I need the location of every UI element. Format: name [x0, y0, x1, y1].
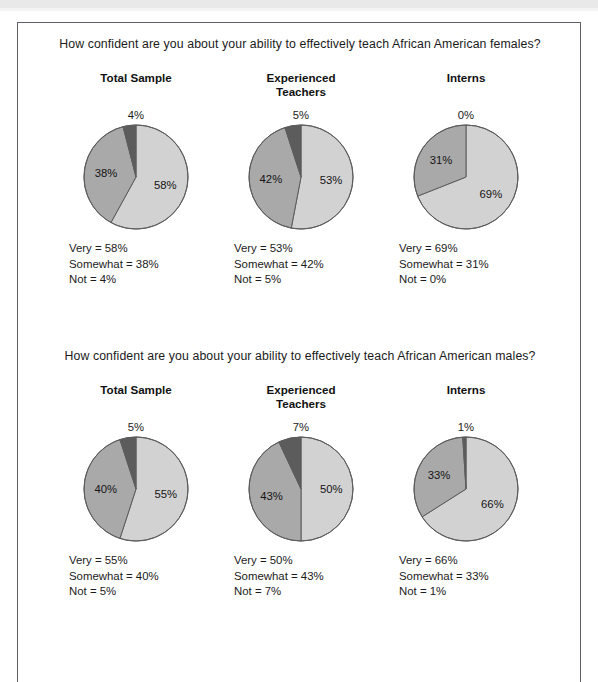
- pie-slice-label-very: 58%: [154, 179, 177, 191]
- pie-chart-cell: 7%50%43%Very = 50%Somewhat = 43%Not = 7%: [226, 420, 376, 600]
- group-header-3: Interns: [391, 71, 541, 85]
- pie-graphic: 69%31%: [391, 123, 541, 231]
- pie-slice-label-somewhat: 33%: [428, 469, 451, 481]
- legend-line-somewhat: Somewhat = 42%: [234, 257, 376, 273]
- pie-legend: Very = 58%Somewhat = 38%Not = 4%: [61, 241, 211, 288]
- group-header-1: Total Sample: [61, 383, 211, 397]
- figure-frame: How confident are you about your ability…: [17, 22, 581, 682]
- legend-line-not: Not = 5%: [69, 584, 211, 600]
- pie-slice-label-somewhat: 38%: [95, 167, 118, 179]
- legend-line-very: Very = 69%: [399, 241, 541, 257]
- pie-graphic: 66%33%: [391, 435, 541, 543]
- legend-line-somewhat: Somewhat = 33%: [399, 569, 541, 585]
- pie-legend: Very = 66%Somewhat = 33%Not = 1%: [391, 553, 541, 600]
- pie-slice-label-somewhat: 43%: [260, 490, 283, 502]
- group-header-1: Total Sample: [61, 71, 211, 85]
- legend-line-not: Not = 4%: [69, 272, 211, 288]
- pie-graphic: 53%42%: [226, 123, 376, 231]
- pie-top-label-not: 5%: [226, 108, 376, 123]
- pie-chart-cell: 5%55%40%Very = 55%Somewhat = 40%Not = 5%: [61, 420, 211, 600]
- pie-legend: Very = 69%Somewhat = 31%Not = 0%: [391, 241, 541, 288]
- legend-line-somewhat: Somewhat = 43%: [234, 569, 376, 585]
- pie-graphic: 50%43%: [226, 435, 376, 543]
- question-2-heading: How confident are you about your ability…: [18, 349, 582, 363]
- group-header-2: ExperiencedTeachers: [226, 71, 376, 98]
- pie-slice-label-somewhat: 31%: [430, 154, 453, 166]
- legend-line-not: Not = 1%: [399, 584, 541, 600]
- pie-svg: [412, 435, 520, 543]
- pie-legend: Very = 55%Somewhat = 40%Not = 5%: [61, 553, 211, 600]
- pie-top-label-not: 5%: [61, 420, 211, 435]
- pie-chart-cell: 1%66%33%Very = 66%Somewhat = 33%Not = 1%: [391, 420, 541, 600]
- legend-line-very: Very = 55%: [69, 553, 211, 569]
- pie-top-label-not: 0%: [391, 108, 541, 123]
- pie-graphic: 55%40%: [61, 435, 211, 543]
- pie-slice-label-somewhat: 42%: [260, 173, 283, 185]
- pie-slice-label-very: 55%: [154, 488, 177, 500]
- legend-line-not: Not = 0%: [399, 272, 541, 288]
- legend-line-very: Very = 50%: [234, 553, 376, 569]
- legend-line-somewhat: Somewhat = 40%: [69, 569, 211, 585]
- pie-top-label-not: 1%: [391, 420, 541, 435]
- legend-line-very: Very = 53%: [234, 241, 376, 257]
- legend-line-somewhat: Somewhat = 38%: [69, 257, 211, 273]
- pie-top-label-not: 7%: [226, 420, 376, 435]
- legend-line-very: Very = 58%: [69, 241, 211, 257]
- group-header-3: Interns: [391, 383, 541, 397]
- pie-chart-cell: 4%58%38%Very = 58%Somewhat = 38%Not = 4%: [61, 108, 211, 288]
- pie-chart-cell: 0%69%31%Very = 69%Somewhat = 31%Not = 0%: [391, 108, 541, 288]
- pie-legend: Very = 50%Somewhat = 43%Not = 7%: [226, 553, 376, 600]
- pie-slice-label-very: 50%: [320, 483, 343, 495]
- question-1-heading: How confident are you about your ability…: [18, 37, 582, 51]
- legend-line-not: Not = 5%: [234, 272, 376, 288]
- legend-line-somewhat: Somewhat = 31%: [399, 257, 541, 273]
- scan-edge-artifact: [0, 0, 598, 8]
- pie-chart-cell: 5%53%42%Very = 53%Somewhat = 42%Not = 5%: [226, 108, 376, 288]
- group-header-2: ExperiencedTeachers: [226, 383, 376, 410]
- pie-slice-label-very: 69%: [480, 188, 503, 200]
- pie-top-label-not: 4%: [61, 108, 211, 123]
- legend-line-not: Not = 7%: [234, 584, 376, 600]
- pie-graphic: 58%38%: [61, 123, 211, 231]
- legend-line-very: Very = 66%: [399, 553, 541, 569]
- pie-slice-label-very: 66%: [481, 498, 504, 510]
- pie-svg: [412, 123, 520, 231]
- pie-slice-label-somewhat: 40%: [94, 483, 117, 495]
- pie-slice-label-very: 53%: [320, 174, 343, 186]
- pie-legend: Very = 53%Somewhat = 42%Not = 5%: [226, 241, 376, 288]
